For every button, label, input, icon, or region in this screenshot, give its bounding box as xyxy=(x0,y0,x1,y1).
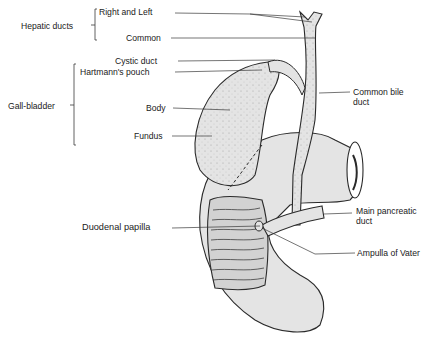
biliary-illustration xyxy=(0,0,446,341)
label-ampulla-of-vater: Ampulla of Vater xyxy=(357,248,420,258)
mucosa-window xyxy=(208,197,268,290)
label-main-pancreatic-duct-1: Main pancreatic xyxy=(356,206,417,216)
label-body: Body xyxy=(146,103,166,113)
anatomy-diagram: Hepatic ducts Right and Left Common Cyst… xyxy=(0,0,446,341)
label-fundus: Fundus xyxy=(134,131,163,141)
label-common-bile-duct-1: Common bile xyxy=(353,87,404,97)
label-common: Common xyxy=(126,33,161,43)
label-common-bile-duct-2: duct xyxy=(353,97,369,107)
label-brackets xyxy=(70,9,97,145)
label-duodenal-papilla: Duodenal papilla xyxy=(82,222,150,232)
label-hepatic-ducts: Hepatic ducts xyxy=(21,21,73,31)
duodenum-lumen xyxy=(347,142,363,198)
label-cystic-duct: Cystic duct xyxy=(115,56,157,66)
label-main-pancreatic-duct-2: duct xyxy=(356,216,372,226)
label-right-and-left: Right and Left xyxy=(99,7,153,17)
label-gall-bladder: Gall-bladder xyxy=(8,101,55,111)
label-hartmanns-pouch: Hartmann's pouch xyxy=(80,67,149,77)
